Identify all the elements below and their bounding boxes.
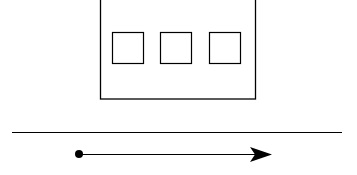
- square-2: [161, 33, 192, 64]
- square-1: [113, 33, 144, 64]
- diagram-canvas: [0, 0, 357, 175]
- square-3: [210, 33, 241, 64]
- container-box: [101, 0, 256, 99]
